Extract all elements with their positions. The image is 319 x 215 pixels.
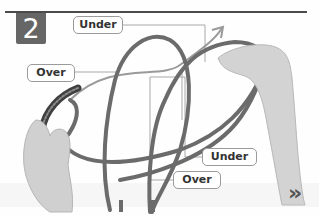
next-step-arrow-icon[interactable]: » (288, 183, 295, 203)
leader-lines (75, 25, 205, 180)
instruction-illustration: 2 Under Over Under Over » (0, 0, 319, 215)
callout-over-bottom: Over (173, 171, 221, 189)
knot-diagram (0, 0, 319, 215)
callout-over-left: Over (27, 64, 75, 82)
step-number-badge: 2 (16, 13, 46, 44)
left-hand (24, 120, 73, 212)
callout-under-bottom: Under (202, 148, 257, 166)
callout-under-top: Under (73, 16, 123, 34)
